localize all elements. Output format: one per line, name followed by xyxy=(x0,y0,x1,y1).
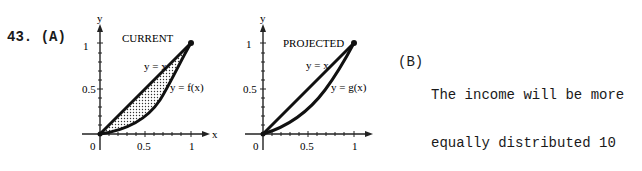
current-xtick-0: 0 xyxy=(90,140,96,152)
current-ytick-1: 1 xyxy=(83,40,89,52)
current-x-label: x xyxy=(212,128,218,140)
projected-chart: y PROJECTED y = x y = g(x) 1 0.5 0 0.5 1 xyxy=(243,12,373,152)
projected-curve-label: y = g(x) xyxy=(331,81,367,94)
current-xtick-05: 0.5 xyxy=(137,140,151,152)
projected-xtick-05: 0.5 xyxy=(300,140,314,152)
part-b-answer: (B) The income will be more equally dist… xyxy=(398,38,641,171)
projected-xtick-0: 0 xyxy=(253,140,259,152)
current-xtick-1: 1 xyxy=(189,140,195,152)
current-curve-label: y = f(x) xyxy=(170,81,204,94)
projected-ytick-1: 1 xyxy=(246,38,252,50)
part-b-line: equally distributed 10 xyxy=(431,135,641,151)
projected-title: PROJECTED xyxy=(283,37,344,49)
current-ytick-05: 0.5 xyxy=(82,83,96,95)
current-y-label: y xyxy=(97,12,103,24)
part-b-line: The income will be more xyxy=(431,87,641,103)
projected-y-label: y xyxy=(260,12,266,24)
projected-xtick-1: 1 xyxy=(352,140,358,152)
projected-ytick-05: 0.5 xyxy=(243,83,257,95)
current-chart: y x CURRENT y = x y = f(x) 1 0.5 0 0.5 1 xyxy=(82,12,218,152)
current-title: CURRENT xyxy=(122,32,174,44)
projected-line-label: y = x xyxy=(306,59,329,71)
current-line-label: y = x xyxy=(144,60,167,72)
part-b-label: (B) xyxy=(398,54,423,70)
